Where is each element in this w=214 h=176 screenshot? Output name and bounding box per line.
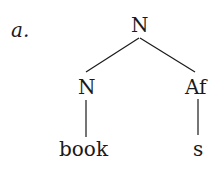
root-node-label: N (131, 15, 149, 35)
example-label: a. (11, 20, 29, 40)
right-terminal-affix: s (193, 139, 203, 159)
left-node-label: N (78, 77, 96, 97)
right-node-label: Af (185, 77, 207, 97)
branch-root-to-right (140, 38, 195, 72)
branch-root-to-left (86, 38, 139, 72)
left-terminal-word: book (59, 139, 108, 159)
